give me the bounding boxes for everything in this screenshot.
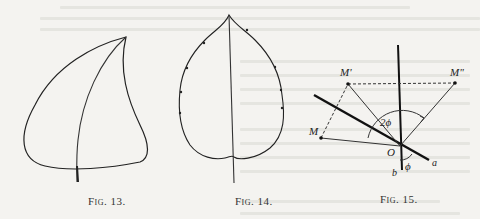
- point-Mdoubleprime: [453, 81, 457, 85]
- point-M: [319, 136, 323, 140]
- point-Mprime: [346, 82, 350, 86]
- figure-15-caption: Fig. 15.: [380, 193, 418, 205]
- figure-14-leaf: [160, 0, 310, 190]
- label-M: M: [308, 125, 319, 137]
- dashed-Mprime-Mdoubleprime: [348, 83, 455, 84]
- angle-arc-2phi: [368, 110, 424, 138]
- line-O-Mprime: [348, 84, 400, 146]
- figure-15-diagram: M M' M" O a b 2ϕ ϕ: [300, 30, 480, 180]
- arc-arrowhead: [420, 116, 424, 122]
- line-O-M: [321, 138, 400, 146]
- figure-14-caption: Fig. 14.: [235, 195, 273, 207]
- label-2phi: 2ϕ: [380, 116, 392, 128]
- axis-a: [314, 95, 429, 160]
- leaf-petiole: [77, 166, 78, 182]
- label-phi: ϕ: [405, 160, 411, 172]
- line-O-Mdoubleprime: [400, 83, 455, 146]
- axis-b: [398, 45, 402, 170]
- label-b: b: [392, 167, 397, 178]
- figure-13-caption: Fig. 13.: [88, 195, 126, 207]
- label-a: a: [432, 157, 437, 168]
- leaf-midrib-straight: [229, 15, 234, 183]
- label-O: O: [387, 146, 395, 158]
- figure-13-leaf: [0, 0, 160, 190]
- leaf-midrib-curved: [77, 37, 126, 182]
- label-Mprime: M': [339, 66, 352, 78]
- label-Mdoubleprime: M": [449, 66, 464, 78]
